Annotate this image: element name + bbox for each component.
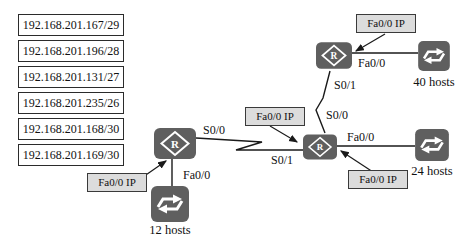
fa-ip-annotation-center-right: Fa0/0 IP (348, 170, 408, 189)
router-icon: R (316, 40, 352, 71)
router-letter: R (331, 51, 338, 61)
interface-label-ct-s00: S0/0 (326, 108, 348, 123)
link-serial-center-top (316, 71, 330, 133)
interface-label-top-fa: Fa0/0 (358, 56, 385, 71)
router-top: R (316, 40, 352, 71)
host-count-left: 12 hosts (140, 223, 200, 238)
interface-label-right-fa: Fa0/0 (347, 130, 374, 145)
fa-ip-annotation-left: Fa0/0 IP (87, 173, 147, 192)
switch-left (151, 186, 189, 222)
host-count-top: 40 hosts (404, 75, 464, 90)
topology-wires (0, 0, 465, 240)
pointer-arrow-center-right (341, 151, 373, 172)
link-serial-left-center (196, 138, 303, 150)
router-icon: R (303, 132, 337, 162)
router-icon: R (154, 128, 196, 159)
interface-label-ct-s01: S0/1 (334, 78, 356, 93)
switch-icon (414, 129, 450, 161)
switch-icon (417, 41, 451, 71)
host-count-right: 24 hosts (402, 164, 462, 179)
interface-label-left-fa: Fa0/0 (183, 168, 210, 183)
pointer-arrow-top (356, 34, 385, 51)
router-letter: R (171, 138, 180, 150)
interface-label-lc-s01: S0/1 (271, 153, 293, 168)
switch-icon (151, 186, 189, 222)
interface-label-lc-s00: S0/0 (203, 123, 225, 138)
router-left: R (154, 128, 196, 159)
network-topology-diagram: 192.168.201.167/29 192.168.201.196/28 19… (0, 0, 465, 240)
fa-ip-annotation-top: Fa0/0 IP (356, 14, 416, 33)
fa-ip-annotation-center-left: Fa0/0 IP (245, 107, 305, 126)
pointer-arrow-center-left (270, 126, 297, 142)
switch-right (414, 129, 450, 161)
router-center: R (303, 132, 337, 162)
switch-top (417, 41, 451, 71)
router-letter: R (317, 142, 324, 152)
